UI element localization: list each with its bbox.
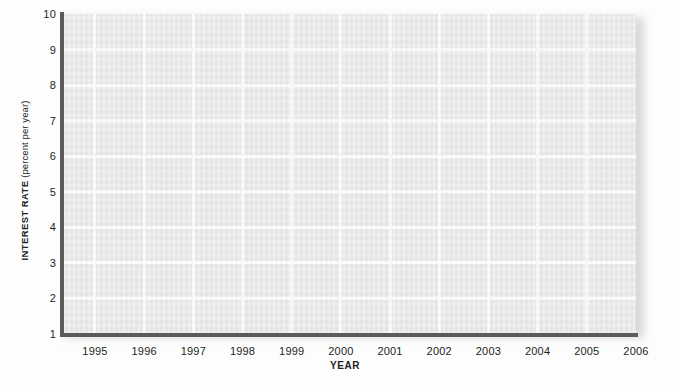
gridline-horizontal xyxy=(63,119,636,122)
y-tick-label: 7 xyxy=(10,115,56,127)
y-axis-title-main: INTEREST RATE xyxy=(19,180,30,260)
gridline-vertical xyxy=(143,14,146,334)
gridline-vertical xyxy=(290,14,293,334)
plot-area xyxy=(63,14,636,334)
gridline-vertical xyxy=(192,14,195,334)
y-axis-title-units: (percent per year) xyxy=(19,101,30,178)
x-axis-spine xyxy=(60,333,638,337)
gridline-horizontal xyxy=(63,226,636,229)
gridline-horizontal xyxy=(63,84,636,87)
gridline-horizontal xyxy=(63,48,636,51)
gridline-vertical xyxy=(438,14,441,334)
gridline-vertical xyxy=(487,14,490,334)
gridline-vertical xyxy=(241,14,244,334)
gridline-vertical xyxy=(536,14,539,334)
y-tick-label: 2 xyxy=(10,292,56,304)
gridline-horizontal xyxy=(63,190,636,193)
y-tick-label: 4 xyxy=(10,221,56,233)
gridline-horizontal xyxy=(63,297,636,300)
gridline-horizontal xyxy=(63,155,636,158)
gridline-vertical xyxy=(93,14,96,334)
y-tick-label: 10 xyxy=(10,8,56,20)
y-tick-label: 8 xyxy=(10,79,56,91)
y-tick-label: 5 xyxy=(10,186,56,198)
y-axis-spine xyxy=(60,12,64,337)
y-axis-title: INTEREST RATE (percent per year) xyxy=(19,51,30,311)
x-tick-label: 2006 xyxy=(606,345,666,357)
chart-figure: 10987654321 1995199619971998199920002001… xyxy=(0,0,678,390)
gridline-vertical xyxy=(389,14,392,334)
y-tick-label: 6 xyxy=(10,150,56,162)
y-tick-label: 1 xyxy=(10,328,56,340)
x-axis-title: YEAR xyxy=(315,360,375,371)
y-tick-label: 3 xyxy=(10,257,56,269)
y-tick-label: 9 xyxy=(10,44,56,56)
gridline-vertical xyxy=(585,14,588,334)
gridline-vertical xyxy=(339,14,342,334)
gridline-horizontal xyxy=(63,261,636,264)
